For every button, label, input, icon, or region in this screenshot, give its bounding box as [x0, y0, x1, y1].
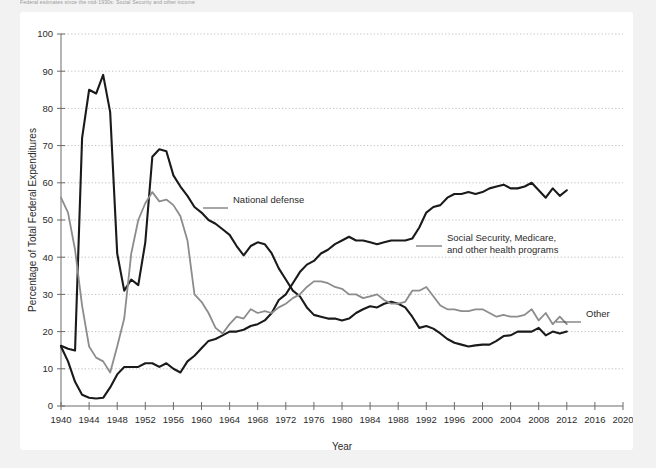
series-label-2: Other: [586, 308, 610, 319]
chart-card: 0102030405060708090100 19401944194819521…: [20, 12, 633, 450]
y-tick-label-0: 0: [48, 400, 53, 411]
series-line-0: [61, 75, 567, 351]
x-tick-label-1948: 1948: [107, 414, 128, 425]
x-tick-label-1952: 1952: [135, 414, 156, 425]
x-tick-label-1972: 1972: [275, 414, 296, 425]
x-tick-label-1992: 1992: [416, 414, 437, 425]
y-tick-label-50: 50: [42, 214, 53, 225]
axis-spines: [61, 34, 623, 406]
series-line-1: [61, 183, 567, 399]
y-tick-label-30: 30: [42, 289, 53, 300]
x-axis-title: Year: [332, 441, 353, 450]
series-label-1-line1: and other health programs: [447, 244, 559, 255]
y-tick-label-70: 70: [42, 140, 53, 151]
x-tick-label-1940: 1940: [50, 414, 71, 425]
y-tick-label-100: 100: [37, 28, 53, 39]
x-tick-label-2016: 2016: [584, 414, 605, 425]
x-tick-label-1984: 1984: [360, 414, 381, 425]
y-tick-label-60: 60: [42, 177, 53, 188]
series-label-1-line0: Social Security, Medicare,: [447, 232, 556, 243]
x-tick-label-2008: 2008: [528, 414, 549, 425]
x-tick-label-1968: 1968: [247, 414, 268, 425]
x-tick-label-1964: 1964: [219, 414, 240, 425]
x-axis-ticks: 1940194419481952195619601964196819721976…: [50, 402, 633, 425]
series-annotations: National defenseSocial Security, Medicar…: [203, 194, 610, 322]
x-tick-label-2020: 2020: [612, 414, 633, 425]
x-tick-label-1988: 1988: [388, 414, 409, 425]
chart-screenshot: Federal estimates since the mid-1930s: S…: [0, 0, 656, 468]
x-tick-label-1976: 1976: [303, 414, 324, 425]
line-chart: 0102030405060708090100 19401944194819521…: [20, 12, 633, 450]
y-tick-label-80: 80: [42, 103, 53, 114]
y-axis-title: Percentage of Total Federal Expenditures: [27, 128, 38, 312]
x-tick-label-1996: 1996: [444, 414, 465, 425]
x-tick-label-1944: 1944: [79, 414, 100, 425]
x-tick-label-1960: 1960: [191, 414, 212, 425]
series-line-2: [61, 192, 567, 372]
chart-plot-area: 0102030405060708090100 19401944194819521…: [20, 12, 633, 450]
y-tick-label-40: 40: [42, 252, 53, 263]
y-tick-label-20: 20: [42, 326, 53, 337]
x-tick-label-1956: 1956: [163, 414, 184, 425]
axes: [61, 34, 623, 406]
gridlines: [61, 34, 623, 369]
page-caption: Federal estimates since the mid-1930s: S…: [20, 0, 620, 6]
y-tick-label-10: 10: [42, 363, 53, 374]
x-tick-label-1980: 1980: [331, 414, 352, 425]
x-tick-label-2004: 2004: [500, 414, 521, 425]
x-tick-label-2000: 2000: [472, 414, 493, 425]
y-tick-label-90: 90: [42, 66, 53, 77]
x-tick-label-2012: 2012: [556, 414, 577, 425]
series-label-0: National defense: [233, 194, 304, 205]
